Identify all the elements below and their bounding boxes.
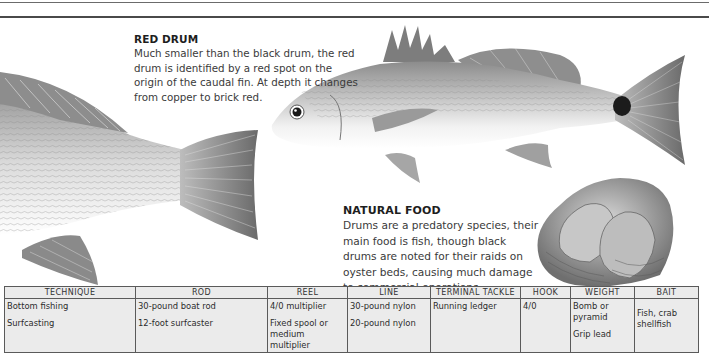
table-row: Bottom fishing Surfcasting 30-pound boat… (5, 299, 699, 353)
cell-hook: 4/0 (521, 299, 571, 353)
red-drum-heading: RED DRUM (134, 33, 364, 45)
cell-weight: Bomb or pyramid Grip lead (571, 299, 635, 353)
header-terminal-tackle: TERMINAL TACKLE (431, 287, 521, 299)
oyster-illustration (538, 178, 674, 286)
cell-reel: 4/0 multiplier Fixed spool or medium mul… (268, 299, 348, 353)
cell-bait: Fish, crab shellfish (635, 299, 699, 353)
tackle-table: TECHNIQUE ROD REEL LINE TERMINAL TACKLE … (4, 286, 699, 353)
header-bait: BAIT (635, 287, 699, 299)
header-rod: ROD (136, 287, 268, 299)
header-hook: HOOK (521, 287, 571, 299)
cell-technique: Bottom fishing Surfcasting (5, 299, 136, 353)
natural-food-caption: NATURAL FOOD Drums are a predatory speci… (343, 204, 543, 296)
header-weight: WEIGHT (571, 287, 635, 299)
header-technique: TECHNIQUE (5, 287, 136, 299)
caudal-spot (613, 96, 631, 116)
cell-rod: 30-pound boat rod 12-foot surfcaster (136, 299, 268, 353)
red-drum-body: Much smaller than the black drum, the re… (134, 46, 364, 104)
header-reel: REEL (268, 287, 348, 299)
red-drum-caption: RED DRUM Much smaller than the black dru… (134, 33, 364, 104)
natural-food-heading: NATURAL FOOD (343, 204, 543, 217)
cell-terminal-tackle: Running ledger (431, 299, 521, 353)
natural-food-body: Drums are a predatory species, their mai… (343, 218, 543, 296)
cell-line: 30-pound nylon 20-pound nylon (348, 299, 431, 353)
header-line: LINE (348, 287, 431, 299)
table-header-row: TECHNIQUE ROD REEL LINE TERMINAL TACKLE … (5, 287, 699, 299)
